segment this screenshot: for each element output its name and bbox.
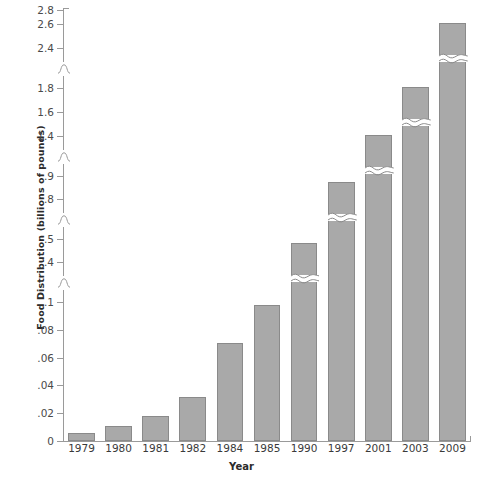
bar bbox=[217, 343, 244, 441]
bar-break-icon bbox=[439, 50, 466, 63]
x-axis-title: Year bbox=[0, 461, 483, 472]
bar bbox=[254, 305, 281, 441]
y-tick-label: .1 bbox=[44, 296, 54, 308]
bar bbox=[142, 416, 169, 441]
axis-break-icon bbox=[58, 149, 70, 163]
y-tick-mark bbox=[57, 330, 63, 331]
y-tick-mark bbox=[57, 176, 63, 177]
x-tick-label: 1984 bbox=[217, 442, 244, 454]
y-tick-label: 1.8 bbox=[37, 82, 54, 94]
x-tick-label: 2001 bbox=[365, 442, 392, 454]
bar-break-icon bbox=[291, 270, 318, 283]
x-tick-label: 1979 bbox=[68, 442, 95, 454]
y-axis-top-cap bbox=[63, 8, 69, 9]
x-axis-right-cap bbox=[470, 436, 471, 442]
y-tick-label: .5 bbox=[44, 233, 54, 245]
y-tick-mark bbox=[57, 262, 63, 263]
y-tick-mark bbox=[57, 10, 63, 11]
x-tick-label: 1997 bbox=[328, 442, 355, 454]
bar-break-icon bbox=[402, 114, 429, 127]
x-tick-label: 1981 bbox=[142, 442, 169, 454]
y-tick-label: .9 bbox=[44, 170, 54, 182]
y-tick-label: .08 bbox=[37, 324, 54, 336]
y-tick-label: 1.6 bbox=[37, 106, 54, 118]
x-tick-label: 2009 bbox=[439, 442, 466, 454]
y-tick-mark bbox=[57, 358, 63, 359]
axis-break-icon bbox=[58, 61, 70, 75]
y-tick-label: .02 bbox=[37, 407, 54, 419]
y-tick-mark bbox=[57, 413, 63, 414]
bar bbox=[439, 23, 466, 441]
y-tick-mark bbox=[57, 24, 63, 25]
x-tick-label: 2003 bbox=[402, 442, 429, 454]
bar bbox=[365, 135, 392, 441]
y-tick-mark bbox=[57, 385, 63, 386]
bar-chart: Food Distribution (billions of pounds) 0… bbox=[0, 0, 483, 481]
bar-break-icon bbox=[328, 209, 355, 222]
plot-area: 0.02.04.06.08.1.4.5.8.91.41.61.82.42.62.… bbox=[63, 8, 471, 442]
y-tick-label: .06 bbox=[37, 352, 54, 364]
bar bbox=[68, 433, 95, 441]
y-tick-mark bbox=[57, 441, 63, 442]
y-tick-mark bbox=[57, 302, 63, 303]
bar bbox=[179, 397, 206, 441]
x-tick-label: 1982 bbox=[179, 442, 206, 454]
y-tick-mark bbox=[57, 88, 63, 89]
bar bbox=[328, 182, 355, 441]
y-tick-label: 2.4 bbox=[37, 42, 54, 54]
y-tick-mark bbox=[57, 112, 63, 113]
bar bbox=[402, 87, 429, 441]
bar bbox=[291, 243, 318, 441]
x-tick-label: 1985 bbox=[254, 442, 281, 454]
x-tick-label: 1980 bbox=[105, 442, 132, 454]
y-tick-label: .8 bbox=[44, 193, 54, 205]
bar-break-icon bbox=[365, 162, 392, 175]
x-tick-label: 1990 bbox=[291, 442, 318, 454]
y-tick-label: .4 bbox=[44, 256, 54, 268]
y-tick-mark bbox=[57, 48, 63, 49]
y-tick-mark bbox=[57, 136, 63, 137]
y-tick-mark bbox=[57, 199, 63, 200]
y-tick-mark bbox=[57, 239, 63, 240]
y-tick-label: 0 bbox=[47, 435, 54, 447]
axis-break-icon bbox=[58, 275, 70, 289]
y-tick-label: 2.6 bbox=[37, 18, 54, 30]
axis-break-icon bbox=[58, 212, 70, 226]
y-tick-label: .04 bbox=[37, 379, 54, 391]
y-tick-label: 1.4 bbox=[37, 130, 54, 142]
bar bbox=[105, 426, 132, 441]
y-tick-label: 2.8 bbox=[37, 4, 54, 16]
